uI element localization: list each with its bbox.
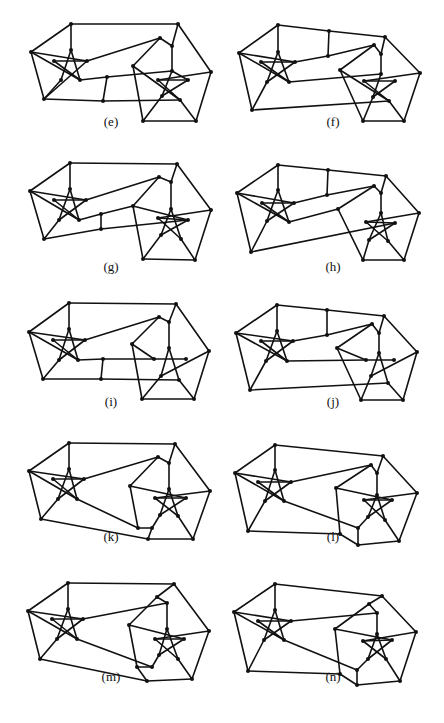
graph-vertex bbox=[127, 623, 131, 627]
graph-edge bbox=[287, 360, 366, 361]
graph-panel-n: (n) bbox=[222, 578, 444, 723]
graph-vertex bbox=[384, 174, 388, 178]
graph-vertex bbox=[334, 486, 338, 490]
graph-vertex bbox=[375, 493, 379, 497]
graph-vertex bbox=[366, 515, 370, 519]
graph-edge bbox=[160, 38, 172, 46]
graph-drawing bbox=[222, 290, 444, 435]
graph-vertex bbox=[256, 619, 260, 623]
graph-edge bbox=[70, 163, 177, 164]
graph-vertex bbox=[67, 441, 71, 445]
graph-vertex bbox=[179, 237, 183, 241]
graph-edge bbox=[103, 77, 107, 101]
graph-vertex bbox=[41, 377, 45, 381]
graph-vertex bbox=[66, 581, 70, 585]
graph-edge bbox=[248, 501, 265, 531]
graph-edge bbox=[175, 444, 210, 491]
graph-panel-j: (j) bbox=[222, 290, 444, 435]
graph-vertex bbox=[176, 22, 180, 26]
graph-vertex bbox=[415, 350, 419, 354]
graph-vertex bbox=[167, 320, 171, 324]
graph-edge bbox=[177, 164, 211, 210]
graph-edge bbox=[329, 31, 385, 37]
graph-vertex bbox=[232, 610, 236, 614]
graph-edge bbox=[252, 82, 267, 110]
graph-edge bbox=[237, 193, 251, 252]
graph-vertex bbox=[372, 43, 376, 47]
graph-vertex bbox=[366, 657, 370, 661]
graph-edge bbox=[404, 213, 419, 260]
graph-edge bbox=[143, 235, 161, 259]
graph-vertex bbox=[369, 463, 373, 467]
graph-vertex bbox=[273, 582, 277, 586]
graph-edge bbox=[336, 488, 340, 534]
graph-vertex bbox=[336, 207, 340, 211]
graph-edge bbox=[80, 77, 107, 80]
graph-edge bbox=[239, 53, 252, 110]
graph-vertex bbox=[66, 607, 70, 611]
graph-drawing bbox=[0, 435, 222, 580]
graph-edge bbox=[364, 81, 389, 101]
graph-edge bbox=[152, 515, 160, 528]
graph-vertex bbox=[233, 471, 237, 475]
graph-edge bbox=[236, 305, 277, 333]
graph-vertex bbox=[367, 238, 371, 242]
graph-vertex bbox=[29, 50, 33, 54]
graph-vertex bbox=[177, 378, 181, 382]
graph-vertex bbox=[156, 216, 160, 220]
graph-vertex bbox=[173, 442, 177, 446]
graph-vertex bbox=[157, 653, 161, 657]
graph-vertex bbox=[386, 381, 390, 385]
graph-edge bbox=[101, 379, 179, 380]
graph-edge bbox=[132, 344, 154, 359]
graph-vertex bbox=[51, 338, 55, 342]
graph-vertex bbox=[369, 374, 373, 378]
graph-edge bbox=[377, 456, 383, 473]
graph-edge bbox=[107, 71, 172, 77]
graph-edge bbox=[103, 100, 180, 101]
graph-edge bbox=[369, 596, 382, 604]
graph-vertex bbox=[390, 498, 394, 502]
graph-edge bbox=[258, 621, 284, 640]
graph-vertex bbox=[105, 75, 109, 79]
graph-vertex bbox=[99, 377, 103, 381]
graph-vertex bbox=[335, 346, 339, 350]
graph-vertex bbox=[51, 477, 55, 481]
panel-label: (i) bbox=[0, 394, 222, 410]
graph-vertex bbox=[170, 44, 174, 48]
graph-edge bbox=[69, 443, 175, 444]
graph-edge bbox=[83, 603, 167, 619]
graph-vertex bbox=[386, 239, 390, 243]
graph-vertex bbox=[256, 480, 260, 484]
graph-vertex bbox=[382, 314, 386, 318]
graph-vertex bbox=[75, 637, 79, 641]
graph-vertex bbox=[383, 518, 387, 522]
graph-edge bbox=[358, 517, 368, 528]
graph-edge bbox=[130, 486, 186, 498]
graph-vertex bbox=[379, 211, 383, 215]
graph-vertex bbox=[152, 357, 156, 361]
graph-vertex bbox=[338, 68, 342, 72]
graph-vertex bbox=[276, 23, 280, 27]
graph-vertex bbox=[131, 64, 135, 68]
graph-vertex bbox=[287, 220, 291, 224]
graph-vertex bbox=[55, 637, 59, 641]
graph-edge bbox=[53, 340, 78, 360]
graph-vertex bbox=[78, 78, 82, 82]
graph-panel-e: (e) bbox=[0, 0, 222, 145]
graph-edge bbox=[381, 37, 385, 54]
graph-panel-f: (f) bbox=[222, 0, 444, 145]
graph-vertex bbox=[156, 78, 160, 82]
graph-vertex bbox=[69, 48, 73, 52]
graph-vertex bbox=[99, 212, 103, 216]
graph-edge bbox=[69, 303, 176, 304]
graph-vertex bbox=[76, 358, 80, 362]
graph-vertex bbox=[77, 218, 81, 222]
graph-edge bbox=[289, 209, 338, 222]
graph-vertex bbox=[81, 617, 85, 621]
graph-vertex bbox=[237, 51, 241, 55]
graph-edge bbox=[31, 24, 71, 52]
graph-edge bbox=[101, 206, 133, 214]
graph-edge bbox=[77, 639, 152, 667]
graph-panel-h: (h) bbox=[222, 145, 444, 290]
